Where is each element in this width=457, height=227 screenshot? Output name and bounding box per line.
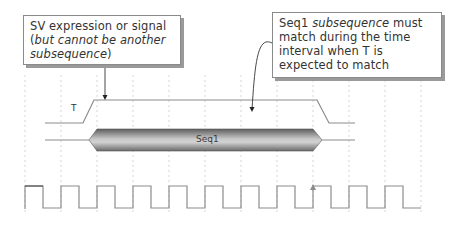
left-arrowhead-icon [103,95,108,100]
right-arrowhead-icon [250,107,255,112]
seq1-label: Seq1 [196,134,219,144]
callout-seq1-subsequence: Seq1 subsequence must match during the t… [272,12,442,78]
clock-waveform [25,186,421,209]
clock-edge-arrow-icon [310,184,316,190]
t-signal-waveform [45,100,355,123]
t-signal-label: T [71,103,77,113]
callout-left-text-3: ) [107,47,112,61]
callout-left-text-italic: but cannot be another subsequence [30,33,166,61]
callout-sv-expression: SV expression or signal (but cannot be a… [23,15,181,65]
callout-right-text-italic: subsequence [312,16,389,30]
callout-right-text-1: Seq1 [279,16,312,30]
